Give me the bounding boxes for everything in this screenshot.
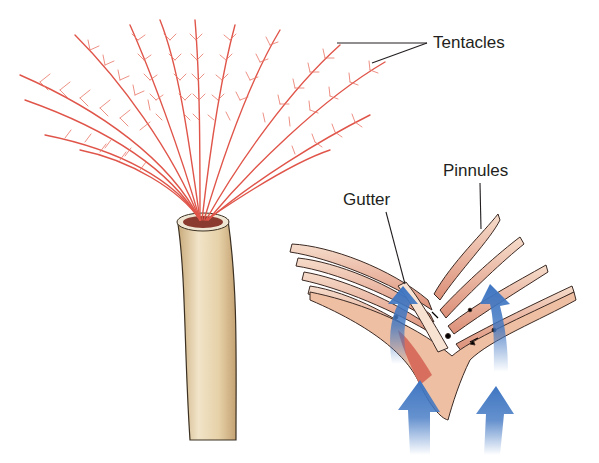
illustration — [0, 0, 599, 463]
worm-tube — [177, 213, 236, 440]
pinnules-label: Pinnules — [443, 161, 508, 181]
fanworm-diagram: Tentacles Pinnules Gutter — [0, 0, 599, 463]
tentacles-leader-lines — [337, 43, 427, 63]
cross-section-leader-lines — [386, 183, 481, 284]
gutter-label: Gutter — [343, 190, 390, 210]
tentacle-cross-section — [290, 214, 576, 420]
tentacles-label: Tentacles — [433, 33, 505, 53]
tentacles — [20, 20, 385, 220]
